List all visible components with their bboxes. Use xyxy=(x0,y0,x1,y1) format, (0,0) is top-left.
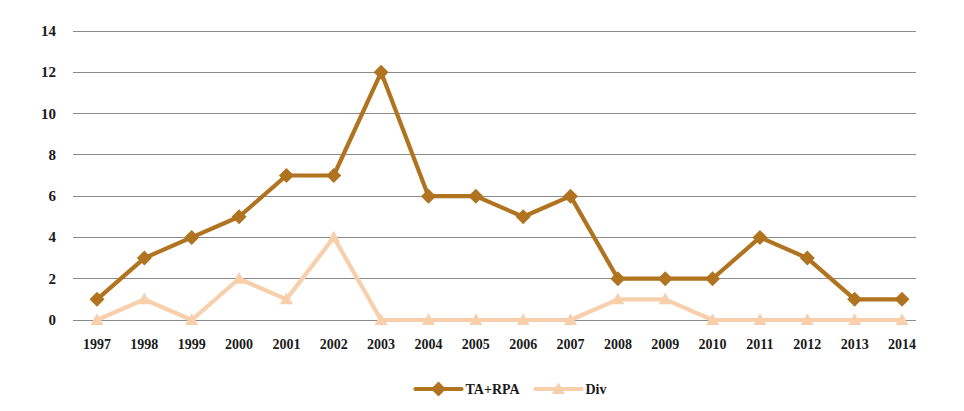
x-tick-label-2013: 2013 xyxy=(841,337,869,352)
x-tick-label-2006: 2006 xyxy=(509,337,537,352)
x-tick-label-2008: 2008 xyxy=(604,337,632,352)
chart-container: 02468101214 1997199819992000200120022003… xyxy=(0,0,964,411)
legend-label: TA+RPA xyxy=(466,382,521,397)
x-tick-label-2005: 2005 xyxy=(462,337,490,352)
x-tick-label-2003: 2003 xyxy=(367,337,395,352)
x-tick-label-2000: 2000 xyxy=(225,337,253,352)
y-tick-label-12: 12 xyxy=(41,64,56,80)
y-tick-label-10: 10 xyxy=(41,106,56,122)
legend-label: Div xyxy=(586,382,607,397)
x-tick-label-1999: 1999 xyxy=(178,337,206,352)
y-tick-label-2: 2 xyxy=(49,271,57,287)
x-tick-label-2010: 2010 xyxy=(699,337,727,352)
x-tick-label-2012: 2012 xyxy=(793,337,821,352)
y-tick-label-6: 6 xyxy=(49,188,57,204)
x-tick-label-2002: 2002 xyxy=(320,337,348,352)
x-tick-label-2007: 2007 xyxy=(557,337,585,352)
x-tick-label-1998: 1998 xyxy=(130,337,158,352)
y-tick-label-8: 8 xyxy=(49,147,57,163)
line-chart: 02468101214 1997199819992000200120022003… xyxy=(0,0,964,411)
x-tick-label-2001: 2001 xyxy=(272,337,300,352)
y-tick-label-14: 14 xyxy=(41,23,57,39)
y-tick-label-0: 0 xyxy=(49,312,57,328)
y-tick-label-4: 4 xyxy=(49,229,57,245)
x-tick-label-2004: 2004 xyxy=(414,337,442,352)
x-tick-label-2009: 2009 xyxy=(651,337,679,352)
x-tick-label-1997: 1997 xyxy=(83,337,111,352)
x-tick-label-2011: 2011 xyxy=(746,337,773,352)
x-tick-label-2014: 2014 xyxy=(888,337,916,352)
